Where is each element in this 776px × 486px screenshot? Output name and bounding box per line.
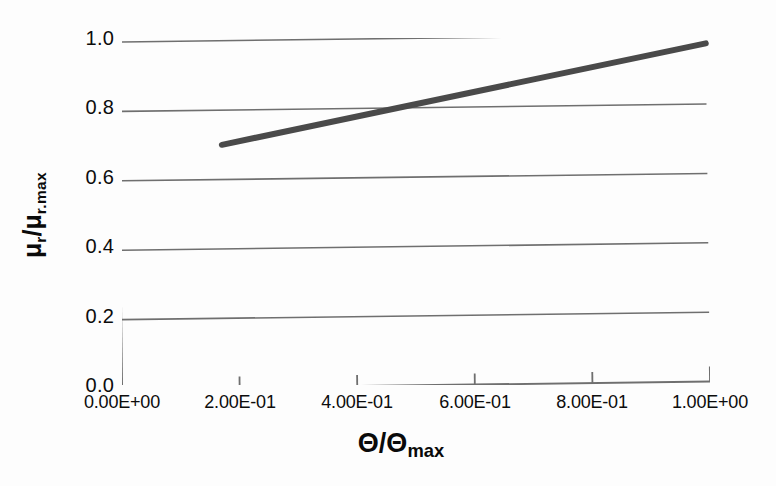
plot-canvas [122,38,710,385]
y-axis-title-base: μ [18,243,46,258]
grid-line-0.4 [122,243,708,250]
y-tick-label-3: 0.6 [54,165,114,188]
grid-line-1.0 [122,38,706,42]
x-tick-label-3: 6.00E-01 [439,392,510,413]
data-series-line [221,43,707,145]
x-axis-title-sub: max [407,440,444,461]
y-axis-title-sub-r: r [32,236,49,242]
x-tick-label-4: 8.00E-01 [556,392,627,413]
y-axis-title-sub-rmax: r.max [32,172,49,214]
plot-area [122,38,710,385]
x-axis-spine [122,382,710,385]
x-tick-label-0: 0.00E+00 [84,392,160,413]
y-axis-tick-labels: 0.0 0.2 0.4 0.6 0.8 1.0 [50,38,114,385]
x-axis-title-base: Θ/Θ [358,428,408,458]
y-tick-label-1: 0.2 [54,304,114,327]
chart-figure: μr/μr.max 0.0 0.2 0.4 0.6 0.8 1.0 [0,0,776,486]
grid-line-0.2 [122,312,709,319]
x-tick-label-5: 1.00E+00 [672,392,748,413]
y-axis-title: μr/μr.max [20,172,48,258]
y-tick-label-4: 0.8 [54,96,114,119]
y-tick-label-5: 1.0 [54,27,114,50]
x-axis-title-wrapper: Θ/Θmax [0,430,776,480]
x-axis-title: Θ/Θmax [332,430,444,461]
x-tick-label-1: 2.00E-01 [204,392,275,413]
grid-lines [122,38,709,320]
y-tick-label-2: 0.4 [54,235,114,258]
y-axis-title-mid: /μ [18,214,46,236]
x-tick-label-2: 4.00E-01 [321,392,392,413]
x-axis-tick-labels: 0.00E+00 2.00E-01 4.00E-01 6.00E-01 8.00… [0,392,776,424]
grid-line-0.6 [122,173,707,180]
